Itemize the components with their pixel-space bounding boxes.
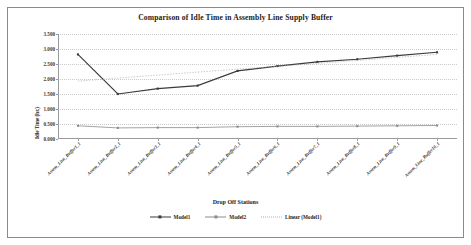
y-tick-label: 2.500 [44,61,55,67]
data-point [157,127,159,129]
data-point [157,88,159,90]
legend-key-icon [150,214,171,220]
y-axis-title: Idle Time (hr.) [34,106,40,138]
legend-key-icon [261,214,282,220]
x-axis-labels: Assem_Line_Buffer1_1Assem_Line_Buffer2_1… [58,141,457,199]
series-line [78,126,437,128]
series-model1 [77,51,438,95]
data-point [117,127,119,129]
legend-item[interactable]: Model2 [205,214,246,220]
x-tick-label: Assem_Line_Buffer5_1 [206,141,241,176]
x-tick-label: Assem_Line_Buffer3_1 [126,141,161,176]
data-point [356,58,358,60]
y-tick-label: 3.000 [44,46,55,52]
data-point [237,70,239,72]
data-point [396,125,398,127]
plot-inner: 0.0000.5001.0001.5002.0002.5003.0003.500 [58,34,457,139]
data-point [197,85,199,87]
x-tick-label: Assem_Line_Buffer6_1 [246,141,281,176]
x-tick-label: Assem_Line_Buffer2_1 [86,141,121,176]
data-point [237,126,239,128]
x-axis-title: Drop Off Stations [8,199,463,205]
chart-title: Comparison of Idle Time in Assembly Line… [8,13,463,22]
x-tick-label: Assem_Line_Buffer4_1 [166,141,201,176]
series-line [78,54,437,81]
legend-item[interactable]: Model1 [150,214,191,220]
y-tick-label: 2.000 [44,76,55,82]
data-point [436,51,438,53]
data-point [197,127,199,129]
y-tick-label: 1.500 [44,91,55,97]
plot-area: 0.0000.5001.0001.5002.0002.5003.0003.500 [58,34,457,139]
y-tick-mark [56,139,58,140]
legend-label: Model1 [174,214,191,220]
x-tick-label: Assem_Line_Buffer10_1 [404,141,441,178]
legend-item[interactable]: Linear (Model1) [261,214,321,220]
data-point [316,61,318,63]
data-point [117,93,119,95]
series-linear-model1 [78,54,437,81]
legend-line [261,217,282,218]
y-tick-label: 0.000 [44,136,55,142]
data-point [396,55,398,57]
legend-label: Linear (Model1) [285,214,321,220]
data-point [77,53,79,55]
legend-marker [214,215,217,218]
data-point [276,125,278,127]
data-point [316,125,318,127]
data-point [436,124,438,126]
y-tick-label: 0.500 [44,121,55,127]
y-tick-label: 3.500 [44,31,55,37]
chart-page: Comparison of Idle Time in Assembly Line… [0,0,471,245]
legend-marker [159,215,162,218]
data-point [77,125,79,127]
legend-key-icon [205,214,226,220]
data-point [356,125,358,127]
series-container [58,34,457,139]
legend-label: Model2 [229,214,246,220]
y-tick-label: 1.000 [44,106,55,112]
series-model2 [77,124,438,129]
x-tick-label: Assem_Line_Buffer1_1 [46,141,81,176]
x-tick-label: Assem_Line_Buffer9_1 [365,141,400,176]
chart-legend: Model1Model2Linear (Model1) [8,214,463,220]
x-tick-label: Assem_Line_Buffer8_1 [326,141,361,176]
chart-frame: Comparison of Idle Time in Assembly Line… [7,7,464,238]
x-tick-label: Assem_Line_Buffer7_1 [286,141,321,176]
